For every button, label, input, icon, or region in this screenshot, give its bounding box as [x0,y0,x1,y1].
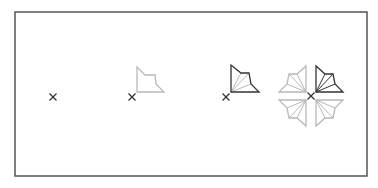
step-2-outline-shape [137,67,164,92]
step-3-cross-marker [223,94,230,101]
step-4-cross-marker [308,93,315,100]
step-2-figure [129,67,165,101]
step-1-cross-marker [50,94,57,101]
step-4-figure [279,66,343,126]
diagram-frame [15,12,367,176]
step-4-petal-upper-right [316,66,343,92]
step-3-radial-lines [231,73,251,92]
step-4-petal-lower-right [316,100,343,126]
step-4-petal-upper-left [279,66,306,92]
diagram-canvas [0,0,378,188]
step-2-cross-marker [129,94,136,101]
step-3-figure [223,65,260,101]
step-4-petal-lower-left [279,100,306,126]
